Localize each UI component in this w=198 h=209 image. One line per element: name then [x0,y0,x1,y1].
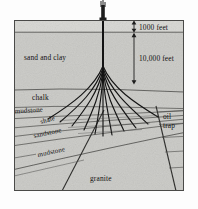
stratum-label-granite: granite [90,174,112,183]
depth-label-10000-feet: 10,000 feet [139,54,175,63]
annotation-oil-trap-line-2: trap [163,121,175,130]
stratum-label-chalk: chalk [32,93,49,102]
depth-label-1000-feet: 1000 feet [139,23,169,32]
stratum-label-sand-and-clay: sand and clay [24,53,66,62]
geological-cross-section-figure: 1000 feet 10,000 feet sand and clay chal… [0,0,198,209]
